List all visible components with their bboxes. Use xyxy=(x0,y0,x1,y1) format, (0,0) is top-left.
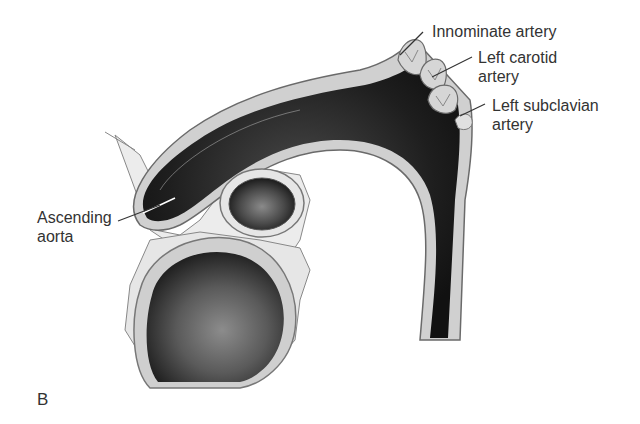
small-vessel xyxy=(455,114,472,130)
innominate-artery-label: Innominate artery xyxy=(432,22,557,41)
left-subclavian-line1: Left subclavian xyxy=(492,96,599,115)
left-subclavian-line2: artery xyxy=(492,115,599,134)
pulmonary-trunk xyxy=(134,237,296,388)
panel-label: B xyxy=(37,390,48,410)
left-subclavian-artery-label: Left subclavian artery xyxy=(492,96,599,134)
left-carotid-artery-label: Left carotid artery xyxy=(478,48,557,86)
ascending-aorta-label: Ascending aorta xyxy=(37,208,112,246)
left-carotid-line2: artery xyxy=(478,67,557,86)
ascending-aorta-line1: Ascending xyxy=(37,208,112,227)
left-carotid-line1: Left carotid xyxy=(478,48,557,67)
left-pulmonary-artery xyxy=(220,169,304,237)
ascending-aorta-line2: aorta xyxy=(37,227,112,246)
